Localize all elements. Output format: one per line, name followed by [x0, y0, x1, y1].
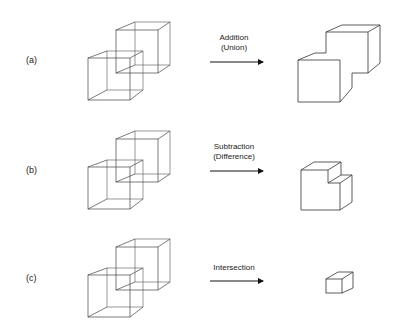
operation-label-difference: Subtraction (Difference) — [199, 142, 269, 162]
row-a-input-cubes — [88, 22, 170, 100]
operation-label-union: Addition (Union) — [199, 33, 269, 53]
operation-alias: (Union) — [199, 43, 269, 53]
operation-name: Addition — [199, 33, 269, 43]
row-b-input-cubes — [88, 131, 170, 209]
operation-label-intersection: Intersection — [199, 263, 269, 273]
row-label-a: (a) — [26, 55, 37, 65]
operation-alias: (Difference) — [199, 152, 269, 162]
operation-name: Intersection — [199, 263, 269, 273]
operation-name: Subtraction — [199, 142, 269, 152]
union-result-shape — [298, 25, 380, 102]
row-label-c: (c) — [26, 273, 37, 283]
row-c-input-cubes — [88, 239, 170, 317]
difference-result-shape — [301, 162, 352, 210]
intersection-result-shape — [326, 272, 353, 293]
row-label-b: (b) — [26, 165, 37, 175]
